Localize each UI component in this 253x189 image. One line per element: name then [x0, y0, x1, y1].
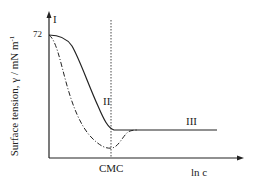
cmc-label: CMC — [99, 162, 123, 174]
region-label-I: I — [53, 13, 57, 25]
region-label-III: III — [186, 115, 197, 127]
y-axis-label-text: Surface tension, γ / mN m — [8, 42, 20, 157]
x-axis-label: ln c — [191, 166, 207, 178]
region-label-II: II — [103, 95, 110, 107]
y-tick-72: 72 — [33, 29, 42, 39]
y-axis-arrow-icon — [47, 11, 52, 18]
surface-tension-chart: Surface tension, γ / mN m-1 72 I II III … — [0, 0, 253, 189]
y-axis-label-exponent: -1 — [8, 36, 16, 42]
y-axis-label: Surface tension, γ / mN m-1 — [8, 36, 21, 157]
dash-dot-curve — [49, 35, 138, 148]
x-axis-arrow-icon — [237, 156, 244, 161]
